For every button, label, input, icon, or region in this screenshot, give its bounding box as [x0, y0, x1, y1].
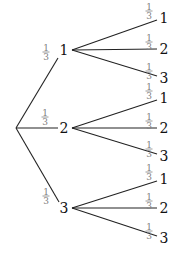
prob-1-to-2-numerator: 1	[146, 33, 152, 43]
prob-3-to-3-numerator: 1	[146, 222, 152, 232]
prob-root-to-3-denominator: 3	[43, 196, 49, 206]
edge-2-to-1	[72, 100, 157, 128]
node-2: 2	[60, 120, 69, 136]
prob-1-to-3-denominator: 3	[146, 71, 152, 81]
leaf-1-2: 2	[160, 41, 169, 57]
prob-3-to-1-denominator: 3	[146, 172, 152, 182]
tree-svg: 131131132133132131132133133131132133	[0, 0, 176, 257]
prob-3-to-3-denominator: 3	[146, 231, 152, 241]
leaf-3-2: 2	[160, 200, 169, 216]
prob-1-to-3-numerator: 1	[146, 62, 152, 72]
prob-root-to-1-numerator: 1	[43, 43, 49, 53]
prob-root-to-1-denominator: 3	[43, 52, 49, 62]
edge-3-to-3	[72, 208, 157, 236]
prob-2-to-3-denominator: 3	[146, 149, 152, 159]
prob-3-to-1-numerator: 1	[146, 163, 152, 173]
prob-3-to-2-denominator: 3	[146, 201, 152, 211]
prob-1-to-2-denominator: 3	[146, 42, 152, 52]
leaf-2-3: 3	[160, 148, 169, 164]
node-1: 1	[60, 42, 69, 58]
prob-1-to-1-denominator: 3	[146, 11, 152, 21]
leaf-2-1: 1	[160, 90, 169, 106]
prob-root-to-2-denominator: 3	[42, 117, 48, 127]
prob-root-to-3-numerator: 1	[43, 187, 49, 197]
prob-2-to-1-denominator: 3	[146, 91, 152, 101]
leaf-1-3: 3	[160, 70, 169, 86]
prob-2-to-1-numerator: 1	[146, 82, 152, 92]
leaf-3-3: 3	[160, 230, 169, 246]
edge-1-to-2	[72, 49, 157, 50]
leaf-3-1: 1	[160, 171, 169, 187]
edge-1-to-3	[72, 50, 157, 76]
prob-2-to-2-numerator: 1	[146, 112, 152, 122]
edge-3-to-1	[72, 181, 157, 208]
prob-1-to-1-numerator: 1	[146, 2, 152, 12]
leaf-1-1: 1	[160, 10, 169, 26]
node-3: 3	[60, 200, 69, 216]
edge-2-to-3	[72, 128, 157, 154]
prob-2-to-2-denominator: 3	[146, 121, 152, 131]
edge-root-to-1	[16, 58, 58, 128]
prob-2-to-3-numerator: 1	[146, 140, 152, 150]
prob-3-to-2-numerator: 1	[146, 192, 152, 202]
prob-root-to-2-numerator: 1	[42, 108, 48, 118]
probability-tree-diagram: 131131132133132131132133133131132133	[0, 0, 176, 257]
edge-1-to-1	[72, 20, 157, 50]
leaf-2-2: 2	[160, 120, 169, 136]
edge-root-to-3	[16, 128, 59, 202]
